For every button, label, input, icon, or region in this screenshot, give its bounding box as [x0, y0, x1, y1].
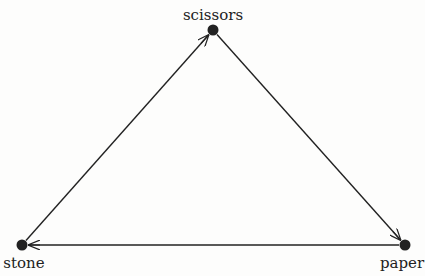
edge-stone-to-scissors: [26, 34, 209, 240]
node-label-paper: paper: [380, 254, 424, 272]
node-scissors: [208, 25, 219, 36]
node-label-stone: stone: [3, 254, 44, 272]
diagram-canvas: [0, 0, 425, 276]
edge-scissors-to-paper: [217, 34, 401, 240]
node-paper: [400, 240, 411, 251]
nodes: [17, 25, 411, 251]
node-stone: [17, 240, 28, 251]
edges: [26, 34, 401, 245]
node-label-scissors: scissors: [183, 6, 243, 24]
